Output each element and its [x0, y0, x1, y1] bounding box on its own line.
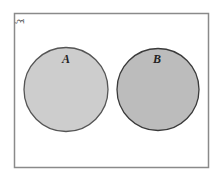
set-b-label: B [152, 52, 161, 66]
venn-diagram: ξ A B [0, 0, 221, 173]
universal-set-label: ξ [15, 19, 25, 24]
set-a-label: A [61, 52, 70, 66]
